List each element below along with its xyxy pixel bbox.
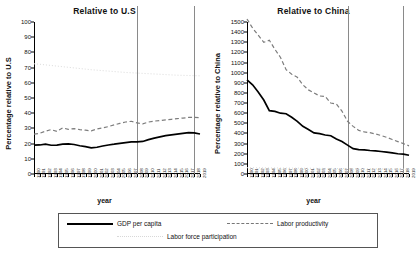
y-tick-label: 200 (234, 151, 244, 157)
chart-title-right: Relative to China (209, 6, 418, 16)
figure-root: Relative to U.S Percentage relative to U… (0, 0, 418, 255)
y-axis-label-left: Percentage relative to U.S (2, 28, 14, 178)
y-tick-label: 100 (21, 19, 31, 25)
x-tick-mark (97, 174, 98, 177)
y-tick-label: 1500 (231, 19, 244, 25)
x-tick-mark (342, 174, 343, 177)
y-tick-label: 80 (24, 49, 31, 55)
y-tick-label: 300 (234, 141, 244, 147)
legend-swatch-solid-line (67, 223, 113, 225)
y-tick-label: 800 (234, 90, 244, 96)
y-tick-label: 600 (234, 110, 244, 116)
x-tick-mark (177, 174, 178, 177)
x-tick-mark (137, 174, 138, 177)
x-tick-mark (34, 174, 35, 177)
series-line-labor-productivity (247, 19, 409, 146)
legend-item-labor-productivity: Labor productivity (227, 220, 328, 227)
x-tick-mark (353, 174, 354, 177)
x-axis-label-left: year (0, 197, 209, 204)
y-tick-label: 60 (24, 80, 31, 86)
legend-item-gdp-per-capita: GDP per capita (67, 220, 161, 227)
legend-swatch-dashed-line (227, 223, 273, 224)
x-tick-mark (160, 174, 161, 177)
series-layer (34, 22, 200, 174)
y-tick-label: 900 (234, 80, 244, 86)
y-tick-label: 90 (24, 34, 31, 40)
series-layer (247, 22, 409, 174)
x-axis-label-right: year (209, 197, 418, 204)
x-tick-label: 2019 (202, 168, 207, 178)
x-tick-mark (286, 174, 287, 177)
y-tick-label: 1300 (231, 39, 244, 45)
chart-legend: GDP per capita Labor productivity Labor … (58, 213, 378, 248)
y-tick-label: 50 (24, 95, 31, 101)
chart-title-left: Relative to U.S (0, 6, 209, 16)
y-tick-label: 10 (24, 156, 31, 162)
x-tick-mark (275, 174, 276, 177)
plot-area-right: 0100200300400500600700800900100011001200… (247, 22, 409, 174)
y-tick-label: 500 (234, 120, 244, 126)
y-tick-label: 400 (234, 130, 244, 136)
y-tick-label: 40 (24, 110, 31, 116)
y-tick-label: 70 (24, 65, 31, 71)
x-tick-mark (247, 174, 248, 177)
legend-label-lfp: Labor force participation (167, 233, 237, 240)
legend-label-gdp: GDP per capita (117, 220, 161, 227)
chart-panel-relative-to-us: Relative to U.S Percentage relative to U… (0, 0, 209, 212)
y-axis-label-right: Percentage relative to China (211, 28, 223, 178)
y-tick-label: 20 (24, 141, 31, 147)
plot-area-left: 0102030405060708090100199019911992199319… (34, 22, 200, 174)
x-tick-mark (74, 174, 75, 177)
legend-label-productivity: Labor productivity (277, 220, 328, 227)
y-tick-label: 1400 (231, 29, 244, 35)
x-tick-label: 2019 (411, 168, 416, 178)
chart-panel-relative-to-china: Relative to China Percentage relative to… (209, 0, 418, 212)
y-tick-label: 1200 (231, 49, 244, 55)
y-tick-label: 1000 (231, 70, 244, 76)
x-tick-mark (409, 174, 410, 177)
y-tick-label: 700 (234, 100, 244, 106)
series-line-gdp-per-capita (34, 133, 200, 148)
legend-item-labor-force-participation: Labor force participation (117, 233, 237, 240)
y-tick-label: 30 (24, 125, 31, 131)
x-tick-mark (200, 174, 201, 177)
x-tick-mark (314, 174, 315, 177)
series-line-labor-productivity (34, 117, 200, 134)
y-tick-label: 100 (234, 161, 244, 167)
series-line-gdp-per-capita (247, 80, 409, 155)
x-tick-mark (381, 174, 382, 177)
legend-swatch-dotted-line (117, 236, 163, 237)
y-tick-label: 1100 (231, 60, 244, 66)
x-tick-mark (114, 174, 115, 177)
series-line-labor-force-participation (247, 168, 409, 169)
series-line-labor-force-participation (34, 64, 200, 76)
